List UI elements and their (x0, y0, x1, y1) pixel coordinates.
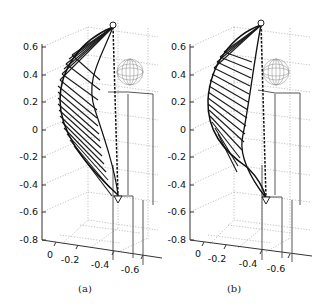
target-marker-b (262, 197, 270, 204)
z-tick-label: 0 (180, 124, 186, 135)
z-tick-label: 0.4 (171, 69, 186, 80)
z-tick-label: -0.2 (19, 151, 38, 162)
sphere-icon (263, 59, 289, 85)
pivot-marker-a (110, 22, 116, 28)
z-tick-label: 0 (32, 124, 38, 135)
z-tick-label: 0.4 (23, 69, 38, 80)
z-tick-label: -0.2 (167, 151, 186, 162)
x-tick-label: 0 (47, 249, 53, 260)
x-tick-label: 0 (195, 248, 201, 259)
x-tick-label: -0.6 (121, 264, 140, 275)
target-marker-a (114, 196, 122, 203)
link-sweep-a (58, 27, 113, 196)
panel-b: 0.6 0.4 0.2 0 -0.2 -0.4 -0.6 -0.8 0 -0.2… (162, 0, 324, 307)
z-tick-label: -0.8 (167, 234, 186, 245)
x-tick-label: -0.2 (61, 254, 80, 265)
x-tick-label: -0.2 (208, 253, 227, 264)
pivot-marker-b (258, 20, 264, 26)
link-sweep-b (208, 25, 261, 172)
z-tick-label: 0.2 (23, 96, 38, 107)
grid-a (42, 20, 158, 252)
plot-b: 0.6 0.4 0.2 0 -0.2 -0.4 -0.6 -0.8 0 -0.2… (162, 0, 324, 307)
caption-a: (a) (78, 283, 92, 294)
x-tick-label: -0.6 (267, 263, 286, 274)
z-tick-label: -0.6 (19, 206, 38, 217)
x-tick-label: -0.4 (239, 258, 258, 269)
z-tick-label: -0.4 (19, 179, 38, 190)
panel-a: 0.6 0.4 0.2 0 -0.2 -0.4 -0.6 -0.8 0 -0.2… (0, 0, 162, 307)
x-tick-label: -0.4 (91, 259, 110, 270)
z-tick-label: -0.6 (167, 206, 186, 217)
z-tick-label: 0.6 (23, 41, 38, 52)
plot-a: 0.6 0.4 0.2 0 -0.2 -0.4 -0.6 -0.8 0 -0.2… (0, 0, 162, 307)
caption-b: (b) (227, 283, 241, 294)
sphere-icon (117, 59, 143, 85)
z-tick-label: 0.6 (171, 41, 186, 52)
z-tick-label: 0.2 (171, 96, 186, 107)
z-tick-label: -0.8 (19, 234, 38, 245)
z-tick-label: -0.4 (167, 179, 186, 190)
